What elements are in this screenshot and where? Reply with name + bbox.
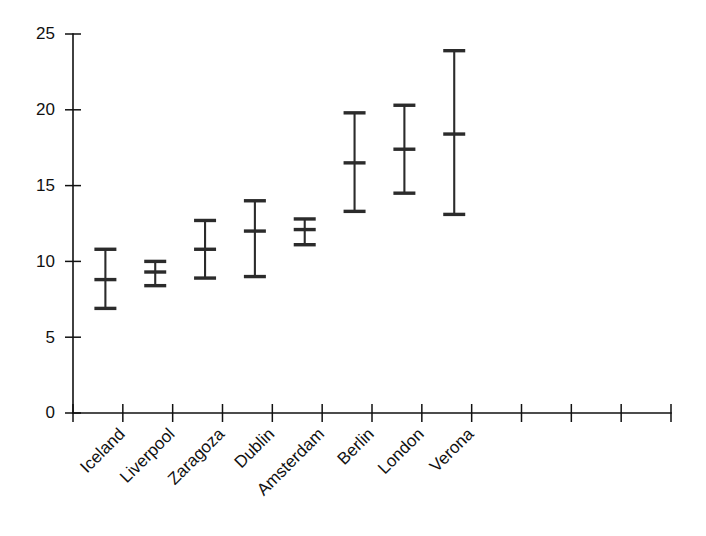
errorbar-marker (144, 261, 166, 285)
y-tick-label: 20 (36, 100, 55, 119)
y-tick-label: 0 (46, 403, 55, 422)
errorbar-marker (294, 219, 316, 245)
x-tick-label: Berlin (334, 424, 378, 468)
y-tick-label: 15 (36, 176, 55, 195)
errorbar-marker (393, 105, 415, 193)
y-axis-group: 0510152025 (36, 24, 81, 422)
errorbar-marker (443, 51, 465, 215)
y-tick-label: 10 (36, 252, 55, 271)
errorbar-marker (344, 113, 366, 212)
x-tick-label-group: IcelandLiverpoolZaragozaDublinAmsterdamB… (76, 424, 477, 499)
x-tick-label: Dublin (231, 424, 279, 472)
chart-container: 0510152025 IcelandLiverpoolZaragozaDubli… (0, 0, 706, 536)
errorbar-marker (194, 220, 216, 278)
y-tick-label: 25 (36, 24, 55, 43)
errorbar-marker (94, 249, 116, 308)
x-tick-label: Verona (426, 424, 478, 476)
x-tick-label: London (374, 424, 428, 478)
x-axis-group (73, 404, 671, 422)
errorbar-marker (244, 201, 266, 277)
errorbar-series (94, 51, 465, 309)
y-tick-label: 5 (46, 328, 55, 347)
y-tick-group: 0510152025 (36, 24, 81, 422)
errorbar-chart: 0510152025 IcelandLiverpoolZaragozaDubli… (0, 0, 706, 536)
